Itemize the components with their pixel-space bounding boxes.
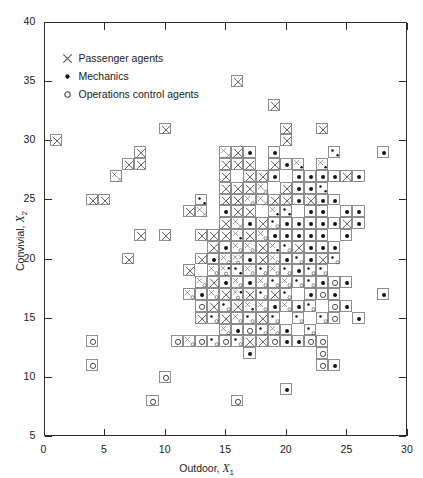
- data-point-cell: [219, 205, 231, 217]
- data-point-cell: [243, 194, 255, 206]
- y-axis-title-main: Convivial,: [14, 223, 26, 271]
- data-point-cell: [243, 324, 255, 336]
- data-point-cell: [316, 123, 328, 135]
- data-point-cell: [340, 205, 352, 217]
- data-point-cell: [195, 300, 207, 312]
- data-point-cell: [243, 288, 255, 300]
- data-point-cell: [328, 276, 340, 288]
- data-point-cell: [207, 288, 219, 300]
- data-point-cell: [328, 170, 340, 182]
- data-point-cell: [316, 347, 328, 359]
- data-point-cell: [159, 123, 171, 135]
- data-point-cell: [183, 288, 195, 300]
- data-point-cell: [195, 312, 207, 324]
- data-point-cell: [231, 276, 243, 288]
- data-point-cell: [159, 371, 171, 383]
- data-point-cell: [316, 288, 328, 300]
- data-point-cell: [268, 194, 280, 206]
- data-point-cell: [328, 300, 340, 312]
- data-point-cell: [219, 194, 231, 206]
- data-point-cell: [243, 312, 255, 324]
- data-point-cell: [316, 335, 328, 347]
- data-point-cell: [159, 229, 171, 241]
- data-point-cell: [207, 241, 219, 253]
- data-point-cell: [207, 264, 219, 276]
- data-point-cell: [292, 312, 304, 324]
- data-point-cell: [268, 229, 280, 241]
- data-point-cell: [243, 146, 255, 158]
- data-point-cell: [268, 146, 280, 158]
- data-point-cell: [340, 217, 352, 229]
- data-point-cell: [256, 194, 268, 206]
- data-point-cell: [207, 300, 219, 312]
- data-point-cell: [304, 241, 316, 253]
- y-axis-title-var: X: [14, 216, 26, 223]
- data-point-cell: [304, 264, 316, 276]
- data-point-cell: [377, 288, 389, 300]
- data-point-cell: [340, 276, 352, 288]
- data-point-cell: [256, 300, 268, 312]
- circle-marker-icon: [60, 87, 75, 102]
- data-point-cell: [292, 182, 304, 194]
- dot-marker-icon: [60, 69, 75, 84]
- data-point-cell: [340, 300, 352, 312]
- data-point-cell: [304, 170, 316, 182]
- data-point-cell: [304, 194, 316, 206]
- data-point-cell: [231, 300, 243, 312]
- data-point-cell: [280, 276, 292, 288]
- data-point-cell: [171, 335, 183, 347]
- data-point-cell: [328, 288, 340, 300]
- data-point-cell: [146, 395, 158, 407]
- data-point-cell: [280, 335, 292, 347]
- data-point-cell: [219, 288, 231, 300]
- data-point-cell: [219, 335, 231, 347]
- data-point-cell: [292, 229, 304, 241]
- data-point-cell: [243, 335, 255, 347]
- data-point-cell: [231, 182, 243, 194]
- data-point-cell: [268, 312, 280, 324]
- legend-item-operations-control-agents: Operations control agents: [60, 86, 199, 102]
- data-point-cell: [243, 253, 255, 265]
- data-point-cell: [134, 229, 146, 241]
- data-point-cell: [280, 217, 292, 229]
- data-point-cell: [243, 182, 255, 194]
- data-point-cell: [280, 300, 292, 312]
- data-point-cell: [219, 146, 231, 158]
- data-point-cell: [231, 324, 243, 336]
- data-point-cell: [316, 170, 328, 182]
- data-point-cell: [280, 134, 292, 146]
- data-point-cell: [268, 300, 280, 312]
- x-axis-title: Outdoor, X1: [179, 462, 234, 477]
- data-point-cell: [280, 182, 292, 194]
- data-point-cell: [304, 276, 316, 288]
- legend-label-operations-control-agents: Operations control agents: [79, 88, 199, 100]
- data-point-cell: [231, 312, 243, 324]
- data-point-cell: [316, 253, 328, 265]
- data-point-cell: [195, 229, 207, 241]
- data-point-cell: [243, 158, 255, 170]
- data-point-cell: [268, 241, 280, 253]
- chart-root: 510152025303540051015202530 Passenger ag…: [0, 0, 423, 478]
- legend-label-passenger-agents: Passenger agents: [79, 52, 164, 64]
- data-point-cell: [304, 324, 316, 336]
- data-point-cell: [183, 205, 195, 217]
- data-point-cell: [304, 253, 316, 265]
- data-point-cell: [219, 324, 231, 336]
- data-point-cell: [256, 312, 268, 324]
- data-point-cell: [316, 312, 328, 324]
- legend-item-passenger-agents: Passenger agents: [60, 50, 199, 66]
- data-point-cell: [280, 205, 292, 217]
- data-point-cell: [316, 158, 328, 170]
- data-point-cell: [352, 312, 364, 324]
- data-point-cell: [256, 288, 268, 300]
- data-point-cell: [328, 146, 340, 158]
- data-point-cell: [352, 217, 364, 229]
- data-point-cell: [207, 276, 219, 288]
- data-point-cell: [256, 253, 268, 265]
- data-point-cell: [352, 170, 364, 182]
- data-point-cell: [231, 264, 243, 276]
- data-point-cell: [304, 182, 316, 194]
- data-point-cell: [195, 335, 207, 347]
- data-point-cell: [280, 229, 292, 241]
- data-point-cell: [280, 324, 292, 336]
